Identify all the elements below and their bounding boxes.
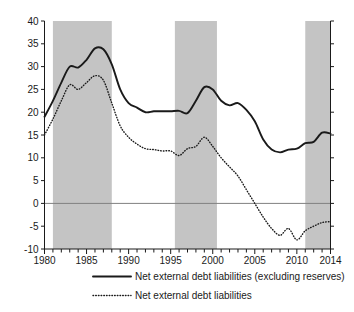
y-tick-label-10: 10 (27, 152, 39, 163)
x-tick-label-2010: 2010 (286, 255, 309, 266)
shaded-band-1 (53, 21, 112, 249)
y-tick-label-0: 0 (33, 198, 39, 209)
shaded-band-3 (305, 21, 330, 249)
x-tick-label-1985: 1985 (75, 255, 98, 266)
chart-container: 19801985199019952000200520102014 -10-505… (0, 0, 354, 312)
x-tick-label-1980: 1980 (33, 255, 56, 266)
y-tick-label-40: 40 (27, 16, 39, 27)
net-external-debt-liabilities-chart: 19801985199019952000200520102014 -10-505… (0, 0, 354, 312)
y-tick-label-25: 25 (27, 84, 39, 95)
legend-label-2: Net external debt liabilities (135, 290, 252, 301)
legend-label-1: Net external debt liabilities (excluding… (135, 271, 345, 282)
y-tick-label-5: 5 (33, 175, 39, 186)
y-tick-label--5: -5 (30, 221, 39, 232)
x-tick-label-2000: 2000 (202, 255, 225, 266)
x-tick-label-1990: 1990 (117, 255, 140, 266)
x-tick-label-2014: 2014 (319, 255, 342, 266)
y-tick-label-30: 30 (27, 61, 39, 72)
x-tick-label-2005: 2005 (244, 255, 267, 266)
y-tick-label-20: 20 (27, 107, 39, 118)
x-tick-label-1995: 1995 (160, 255, 183, 266)
y-tick-label-15: 15 (27, 130, 39, 141)
y-tick-label-35: 35 (27, 38, 39, 49)
y-tick-label--10: -10 (24, 244, 39, 255)
shaded-band-2 (175, 21, 217, 249)
